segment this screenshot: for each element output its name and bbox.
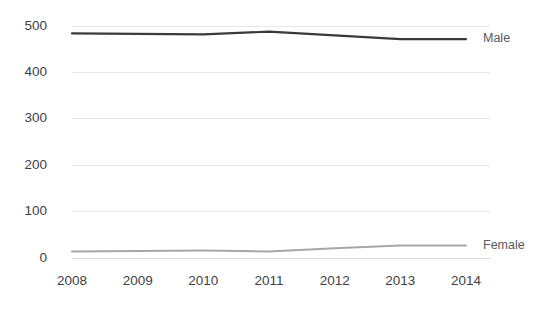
series-line-female bbox=[72, 246, 466, 252]
series-layer bbox=[72, 32, 466, 252]
y-tick-label: 200 bbox=[24, 157, 47, 172]
series-labels: Male Female bbox=[483, 31, 525, 251]
x-tick-label: 2008 bbox=[57, 273, 87, 288]
y-tick-label: 0 bbox=[39, 250, 47, 265]
chart-canvas: 500 400 300 200 100 0 Male Female 2008 2… bbox=[0, 0, 537, 311]
y-tick-label: 400 bbox=[24, 64, 47, 79]
x-axis-tick-labels: 2008 2009 2010 2011 2012 2013 2014 bbox=[57, 273, 482, 288]
y-tick-label: 100 bbox=[24, 203, 47, 218]
series-line-male bbox=[72, 32, 466, 39]
y-tick-label: 500 bbox=[24, 18, 47, 33]
x-tick-label: 2010 bbox=[188, 273, 218, 288]
y-tick-label: 300 bbox=[24, 110, 47, 125]
x-tick-label: 2009 bbox=[123, 273, 153, 288]
x-tick-label: 2013 bbox=[385, 273, 415, 288]
x-tick-label: 2011 bbox=[254, 273, 283, 288]
series-label-female: Female bbox=[483, 238, 525, 252]
line-chart: 500 400 300 200 100 0 Male Female 2008 2… bbox=[0, 0, 537, 311]
y-axis-tick-labels: 500 400 300 200 100 0 bbox=[24, 18, 47, 265]
x-tick-label: 2014 bbox=[451, 273, 482, 288]
series-label-male: Male bbox=[483, 31, 510, 45]
gridlines bbox=[72, 27, 490, 259]
x-tick-label: 2012 bbox=[320, 273, 350, 288]
